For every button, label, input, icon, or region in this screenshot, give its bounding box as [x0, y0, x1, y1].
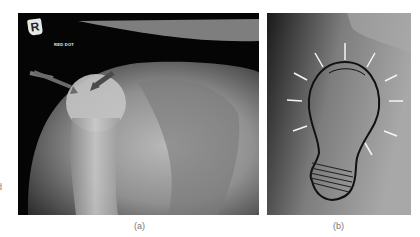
lightbulb-overlay-image	[267, 13, 411, 215]
left-edge-text-fragment: d	[0, 182, 2, 192]
caption-b: (b)	[333, 221, 344, 231]
xray-panel-b	[267, 13, 411, 215]
xray-panel-a: R RED DOT	[18, 13, 259, 215]
film-label: RED DOT	[54, 42, 74, 47]
caption-a: (a)	[134, 221, 145, 231]
r-side-marker: R	[27, 18, 43, 36]
